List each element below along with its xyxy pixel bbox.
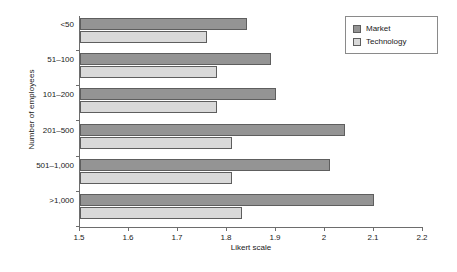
- x-axis-tick-label: 1.8: [206, 233, 246, 242]
- x-axis-tick: [373, 227, 374, 231]
- bar-chart: Number of employees <5051–100101–200201–…: [0, 0, 457, 272]
- legend-swatch-icon: [353, 25, 361, 33]
- bar-market: [80, 159, 330, 171]
- bar-market: [80, 18, 247, 30]
- bar-market: [80, 194, 374, 206]
- bar-technology: [80, 137, 232, 149]
- bar-technology: [80, 66, 217, 78]
- x-axis-tick: [275, 227, 276, 231]
- legend-item-technology: Technology: [353, 35, 431, 48]
- y-axis-tick-label: 201–500: [43, 126, 74, 135]
- y-axis-tick-label: >1,000: [49, 196, 74, 205]
- bar-group: 101–200: [80, 86, 423, 121]
- x-axis-tick-label: 1.6: [108, 233, 148, 242]
- legend-swatch-icon: [353, 38, 361, 46]
- bar-group: 501–1,000: [80, 157, 423, 192]
- y-axis-title: Number of employees: [27, 30, 36, 190]
- bar-technology: [80, 172, 232, 184]
- y-axis-tick-label: <50: [60, 20, 74, 29]
- y-axis-tick-label: 101–200: [43, 90, 74, 99]
- bar-market: [80, 124, 345, 136]
- x-axis-tick-label: 2.2: [402, 233, 442, 242]
- bar-market: [80, 88, 276, 100]
- x-axis-title: Likert scale: [79, 243, 423, 252]
- bar-technology: [80, 101, 217, 113]
- bar-technology: [80, 207, 242, 219]
- bar-group: 51–100: [80, 51, 423, 86]
- bar-group: 201–500: [80, 122, 423, 157]
- x-axis-tick-label: 1.5: [59, 233, 99, 242]
- x-axis-line: [79, 227, 423, 228]
- x-axis-tick-label: 2.1: [353, 233, 393, 242]
- y-axis-tick-label: 51–100: [47, 55, 74, 64]
- x-axis-tick: [324, 227, 325, 231]
- x-axis-tick: [177, 227, 178, 231]
- bar-market: [80, 53, 271, 65]
- x-axis-tick-label: 1.9: [255, 233, 295, 242]
- x-axis-tick-label: 1.7: [157, 233, 197, 242]
- x-axis-tick: [128, 227, 129, 231]
- bar-group: >1,000: [80, 192, 423, 227]
- x-axis-tick: [226, 227, 227, 231]
- bar-technology: [80, 31, 207, 43]
- chart-legend: MarketTechnology: [345, 16, 438, 54]
- x-axis-tick-label: 2: [304, 233, 344, 242]
- x-axis-tick: [79, 227, 80, 231]
- x-axis-tick: [422, 227, 423, 231]
- legend-label: Technology: [366, 37, 406, 46]
- legend-item-market: Market: [353, 22, 431, 35]
- y-axis-tick-label: 501–1,000: [36, 161, 74, 170]
- legend-label: Market: [366, 24, 390, 33]
